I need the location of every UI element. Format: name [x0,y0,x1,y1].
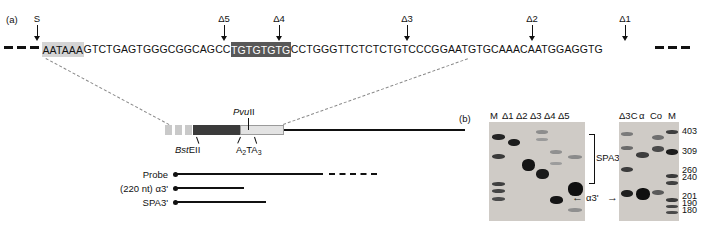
dash-segment [655,46,664,49]
gel-band [621,190,633,197]
gel-band [550,196,563,204]
size-marker-309: 309 [682,147,697,156]
sequence-row: AATAAAGTCTGAGTGGGCGGCAGCCTGTGTGTGCCTGGGT… [0,40,701,58]
track-dashline-probe [329,173,377,175]
bstEII-label: BstEII [175,144,200,155]
gel-band [652,146,664,152]
dash-segment [17,46,26,49]
spa3-bracket [589,134,595,184]
gel-lane-label-M: M [490,110,498,121]
gel-band [568,208,582,212]
sequence-segment-3: CCTGGGTTCTCTCTGTCCCGGAATGTGCAAACAATGGAGG… [291,43,603,55]
sequence-left-dashes [4,46,39,49]
pvuII-label: PvuII [233,106,255,117]
sequence-segment-2: GTCTGAGTGGGCGGCAGCC [84,43,231,55]
gene-map-3utr-exon [240,125,284,135]
gel-band [492,182,505,186]
gel-band [536,130,548,134]
panel-a-label: (a) [6,14,18,25]
deletion-arrow-shaft [407,25,408,37]
deletion-arrow-shaft [625,25,626,37]
gel-image-lane-delta5 [567,122,585,221]
pvuII-tick [248,118,249,130]
gel-band [550,150,562,154]
gel-band [666,149,678,155]
gene-map-coding-exon [193,125,240,135]
gel-band [508,139,520,146]
track-line-probe [177,173,323,175]
figure-root: (a) SΔ5Δ4Δ3Δ2Δ1 AATAAAGTCTGAGTGGGCGGCAGC… [0,0,701,229]
deletion-arrow-shaft [224,25,225,37]
gel-band [666,211,678,214]
deletion-arrow-label: Δ3 [393,14,421,24]
gel-band [492,134,505,140]
alpha3-arrow-right: → [607,193,618,201]
deletion-arrow-label: S [23,14,51,24]
gel-band [492,154,505,159]
dash-segment [30,46,39,49]
gel-lane-label-delta4: Δ4 [544,110,556,121]
gel-band [550,162,562,165]
deletion-arrow-delta3: Δ3 [393,14,421,37]
gel-band [636,152,649,158]
gel-band [568,155,582,159]
size-marker-403: 403 [682,127,697,136]
deletion-arrow-delta4: Δ4 [265,14,293,37]
gel-band [652,190,664,195]
gel-lane-label-delta3C: Δ3C [619,110,638,121]
deletion-arrow-delta2: Δ2 [518,14,546,37]
gel-image-left [489,122,567,221]
panel-b-label: (b) [459,113,471,124]
leader-line-left [46,58,170,125]
track-label-alpha3: (220 nt) α3' [46,183,168,194]
deletion-arrow-shaft [279,25,280,37]
deletion-arrow-label: Δ1 [611,14,639,24]
gel-image-right [619,122,679,221]
gel-lane-label-delta2: Δ2 [516,110,528,121]
gel-band [666,205,678,208]
gel-band [492,197,505,201]
gel-band [522,159,535,171]
track-line-spa3 [177,201,266,203]
a2ta3-leader-right [254,137,257,144]
gel-lane-label-delta3: Δ3 [530,110,542,121]
deletion-arrow-label: Δ4 [265,14,293,24]
dash-segment [4,46,13,49]
deletion-arrow-shaft [532,25,533,37]
size-marker-240: 240 [682,173,697,182]
alpha3-arrow-left: ← [572,193,583,201]
sequence-right-dashes [655,46,690,49]
polyadenylation-signal-aataaa: AATAAA [42,42,84,57]
track-label-probe: Probe [60,169,168,180]
gene-map-ghost-exon [165,125,193,135]
gel-band [492,189,505,193]
gel-band [666,130,678,134]
gel-background-delta5 [567,122,585,221]
track-label-spa3: SPA3' [72,197,168,208]
dna-sequence: AATAAAGTCTGAGTGGGCGGCAGCCTGTGTGTGCCTGGGT… [42,43,603,55]
deletion-arrow-delta1: Δ1 [611,14,639,37]
gel-band [666,174,678,178]
gel-lane-label-delta5: Δ5 [558,110,570,121]
size-marker-180: 180 [682,206,697,215]
gel-band [621,146,633,150]
gel-lane-label-M: M [668,110,676,121]
gel-band [666,198,678,202]
gel-band [536,169,549,179]
dash-segment [681,46,690,49]
track-line-alpha3 [177,187,244,189]
gel-band [636,188,650,200]
a2ta3-leader-left [237,137,241,144]
deletion-arrow-label: Δ2 [518,14,546,24]
bstEII-leader [196,137,199,144]
deletion-arrow-shaft [37,25,38,37]
a2ta3-label: A2TA3 [236,144,262,156]
gel-band [652,135,664,140]
gel-band [621,132,633,136]
dash-segment [668,46,677,49]
gel-band [666,181,678,185]
gt-rich-downstream-element: TGTGTGTG [231,42,291,57]
gene-map-downstream-line [283,129,465,132]
gene-map [165,125,465,137]
leader-line-right [283,58,468,125]
